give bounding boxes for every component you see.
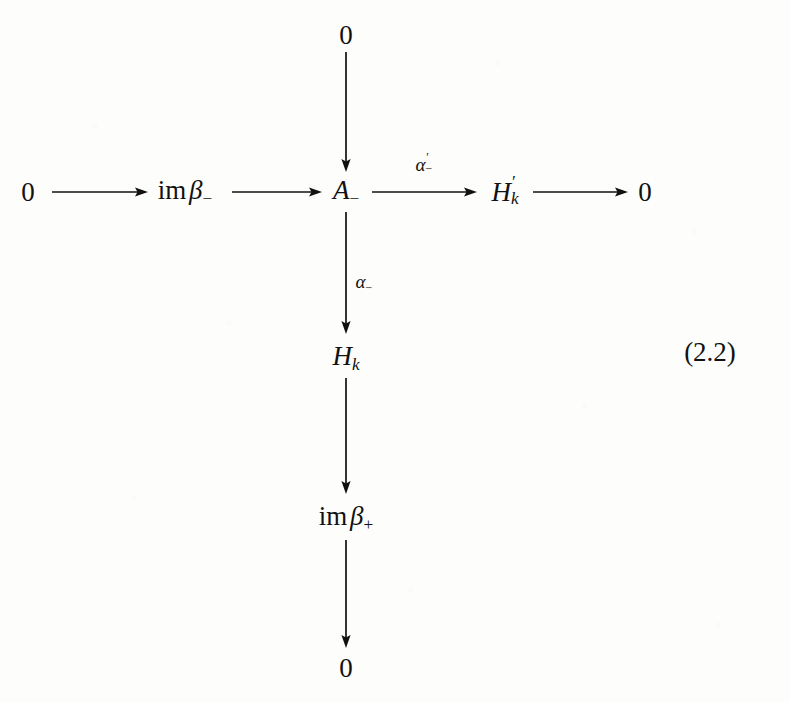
arrow-a-minus-to-h-k xyxy=(338,212,354,334)
arrow-im-beta-plus-to-zero xyxy=(338,540,354,648)
node-right-zero-label: 0 xyxy=(638,177,652,207)
diagram-page: 0 0 imβ− A− H′k 0 Hk imβ+ 0 α′− α− (2.2) xyxy=(0,0,790,702)
node-left-zero-label: 0 xyxy=(21,177,35,207)
node-bottom-zero: 0 xyxy=(339,655,353,682)
arrow-im-beta-minus-to-a-minus xyxy=(232,184,322,200)
paper-texture-overlay xyxy=(0,0,790,702)
im-operator-plus: im xyxy=(319,501,348,531)
alpha-prime-minus-subscript: − xyxy=(426,164,433,173)
a-symbol: A xyxy=(333,175,350,205)
alpha-prime-symbol: α xyxy=(416,154,426,175)
h-prime-k-affixes: ′k xyxy=(511,192,519,204)
beta-symbol-minus: β xyxy=(189,175,202,205)
arrow-h-prime-k-to-zero xyxy=(533,184,628,200)
equation-number-label: (2.2) xyxy=(684,337,736,367)
beta-minus-subscript: − xyxy=(202,189,212,208)
node-bottom-zero-label: 0 xyxy=(339,653,353,683)
arrow-zero-to-im-beta-minus xyxy=(52,184,148,200)
node-top-zero: 0 xyxy=(339,22,353,49)
im-operator-minus: im xyxy=(158,175,187,205)
node-right-zero: 0 xyxy=(638,179,652,206)
arrow-zero-to-a-minus xyxy=(338,52,354,172)
arrow-a-minus-to-h-prime-k xyxy=(372,184,477,200)
arrow-h-k-to-im-beta-plus xyxy=(338,378,354,494)
arrow-label-alpha-minus: α− xyxy=(356,272,373,294)
node-top-zero-label: 0 xyxy=(339,20,353,50)
a-minus-subscript: − xyxy=(349,189,359,208)
node-h-k: Hk xyxy=(332,343,359,373)
alpha-prime-minus-affixes: ′− xyxy=(426,164,433,173)
node-h-prime-k: H′k xyxy=(491,179,518,206)
node-left-zero: 0 xyxy=(21,179,35,206)
arrow-label-alpha-prime-minus: α′− xyxy=(416,155,433,174)
h-k-subscript: k xyxy=(352,355,360,374)
alpha-symbol: α xyxy=(356,271,366,292)
equation-number: (2.2) xyxy=(684,339,736,366)
node-im-beta-plus: imβ+ xyxy=(319,503,373,533)
h-prime-k-subscript: k xyxy=(511,192,519,204)
h-symbol: H xyxy=(332,341,352,371)
node-im-beta-minus: imβ− xyxy=(158,177,212,207)
node-a-minus: A− xyxy=(333,177,359,207)
beta-symbol-plus: β xyxy=(350,501,363,531)
alpha-minus-subscript: − xyxy=(366,281,373,295)
beta-plus-subscript: + xyxy=(363,515,373,534)
h-prime-symbol: H xyxy=(491,177,511,207)
